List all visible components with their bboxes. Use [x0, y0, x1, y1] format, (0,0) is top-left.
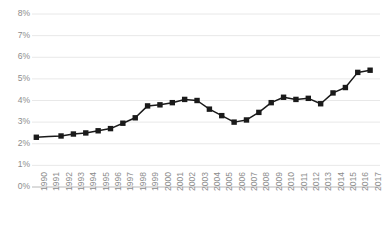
data-point-marker: 2005: 3.3%: [219, 113, 224, 118]
data-point-marker: 1990: 2.3%: [34, 135, 39, 140]
data-point-marker: 2004: 3.6%: [207, 106, 212, 111]
y-axis-tick-label: 5%: [2, 74, 30, 83]
data-point-marker: 2006: 3%: [231, 119, 236, 124]
data-point-marker: 1992: 2.36%: [58, 133, 63, 138]
data-point-marker: 1997: 2.95%: [120, 121, 125, 126]
y-axis-tick-label: 8%: [2, 9, 30, 18]
data-point-marker: 1999: 3.75%: [145, 103, 150, 108]
data-point-marker: 2008: 3.45%: [256, 110, 261, 115]
data-point-marker: 2010: 4.15%: [281, 95, 286, 100]
data-point-marker: 2012: 4.1%: [306, 96, 311, 101]
data-point-marker: 2007: 3.1%: [244, 117, 249, 122]
data-point-marker: 2014: 4.35%: [330, 90, 335, 95]
data-point-marker: 2002: 4.05%: [182, 97, 187, 102]
data-point-marker: 1996: 2.7%: [108, 126, 113, 131]
y-axis-tick-label: 6%: [2, 52, 30, 61]
y-axis-tick-label: 2%: [2, 139, 30, 148]
gridlines: [32, 14, 380, 187]
y-axis-tick-labels: 0%1%2%3%4%5%6%7%8%: [0, 0, 30, 249]
line-chart: 1990: 2.3%1992: 2.36%1993: 2.45%1994: 2.…: [0, 0, 391, 249]
data-point-marker: 2000: 3.8%: [157, 102, 162, 107]
data-point-marker: 2013: 3.85%: [318, 101, 323, 106]
data-point-marker: 2016: 5.3%: [355, 70, 360, 75]
data-point-marker: 2011: 4.05%: [293, 97, 298, 102]
data-point-marker: 2015: 4.6%: [343, 85, 348, 90]
data-point-marker: 1998: 3.2%: [133, 115, 138, 120]
y-axis-tick-label: 3%: [2, 117, 30, 126]
chart-plot-area: 1990: 2.3%1992: 2.36%1993: 2.45%1994: 2.…: [0, 0, 391, 249]
data-point-marker: 2009: 3.9%: [269, 100, 274, 105]
data-point-marker: 2017: 5.4%: [367, 68, 372, 73]
data-series-markers: 1990: 2.3%1992: 2.36%1993: 2.45%1994: 2.…: [34, 68, 373, 140]
data-point-marker: 2001: 3.9%: [170, 100, 175, 105]
data-point-marker: 1994: 2.5%: [83, 130, 88, 135]
y-axis-tick-label: 1%: [2, 160, 30, 169]
y-axis-tick-label: 0%: [2, 182, 30, 191]
data-point-marker: 2003: 4%: [194, 98, 199, 103]
y-axis-tick-label: 7%: [2, 31, 30, 40]
data-point-marker: 1995: 2.6%: [95, 128, 100, 133]
y-axis-tick-label: 4%: [2, 96, 30, 105]
data-point-marker: 1993: 2.45%: [71, 131, 76, 136]
